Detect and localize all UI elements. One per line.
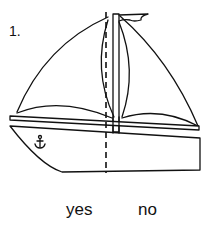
hull: [10, 126, 200, 172]
answer-no[interactable]: no: [138, 201, 157, 219]
center-sail: [101, 20, 114, 117]
right-sail: [120, 16, 198, 126]
answer-yes[interactable]: yes: [66, 201, 92, 219]
mast: [113, 14, 119, 132]
sailboat-figure: [0, 0, 205, 190]
left-sail: [17, 17, 108, 112]
flag: [119, 14, 148, 21]
